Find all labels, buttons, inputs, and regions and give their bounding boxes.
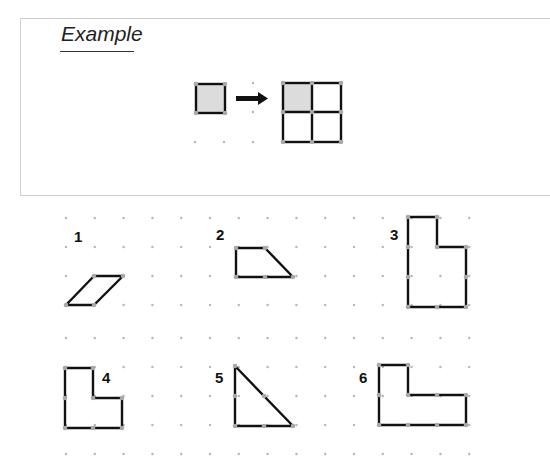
figure-3-l-shape xyxy=(408,217,466,307)
worksheet-dot-grid xyxy=(65,217,471,455)
example-unit-square xyxy=(194,82,228,116)
problem-5-label: 5 xyxy=(215,369,223,386)
problem-1-label: 1 xyxy=(74,228,82,245)
arrow-right-icon xyxy=(236,92,268,105)
example-enlarged-square xyxy=(281,81,344,145)
figure-2-trapezoid xyxy=(236,248,293,277)
problem-4-label: 4 xyxy=(102,369,110,386)
problem-3-label: 3 xyxy=(390,226,398,243)
problem-6-label: 6 xyxy=(359,369,367,386)
figure-1-parallelogram xyxy=(66,276,123,305)
problem-2-label: 2 xyxy=(216,226,224,243)
figure-6-l-shape xyxy=(379,365,466,425)
